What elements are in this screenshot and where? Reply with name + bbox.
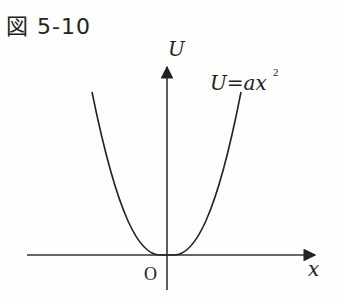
curve-label-exponent: 2 bbox=[273, 66, 279, 78]
parabola-diagram: U x O U=ax 2 bbox=[0, 0, 343, 298]
origin-label: O bbox=[144, 264, 157, 284]
curve-label: U=ax bbox=[210, 71, 267, 95]
y-axis-label: U bbox=[168, 37, 186, 61]
x-axis-label: x bbox=[308, 257, 319, 281]
